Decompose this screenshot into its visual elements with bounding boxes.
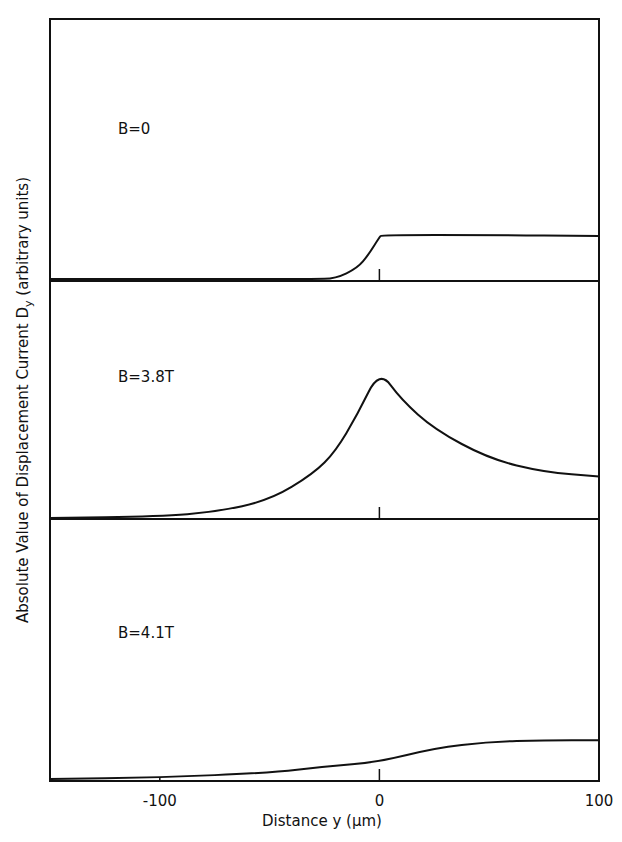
curve-1 xyxy=(50,379,599,518)
x-tick-label: 100 xyxy=(585,792,614,810)
panel-label: B=0 xyxy=(118,120,150,138)
labels: B=0B=3.8TB=4.1T-1000100Distance y (µm)Ab… xyxy=(14,120,613,830)
panel-label: B=3.8T xyxy=(118,368,175,386)
chart: B=0B=3.8TB=4.1T-1000100Distance y (µm)Ab… xyxy=(0,0,622,842)
x-axis-label: Distance y (µm) xyxy=(262,812,382,830)
x-tick-label: -100 xyxy=(143,792,177,810)
panel-label: B=4.1T xyxy=(118,624,175,642)
curve-2 xyxy=(50,740,599,779)
curve-0 xyxy=(50,235,599,279)
curves xyxy=(50,235,599,779)
x-tick-label: 0 xyxy=(375,792,385,810)
y-axis-label: Absolute Value of Displacement Current D… xyxy=(14,177,35,623)
